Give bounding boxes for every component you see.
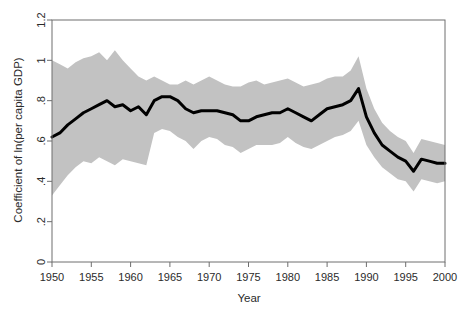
x-tick-label: 1960 bbox=[118, 271, 142, 283]
y-tick-label: 1 bbox=[35, 57, 47, 63]
x-tick-label: 1995 bbox=[393, 271, 417, 283]
y-tick-label: .4 bbox=[35, 177, 47, 186]
y-tick-label: 1.2 bbox=[35, 12, 47, 27]
x-axis-title: Year bbox=[237, 292, 260, 304]
chart-plot-svg: 1950195519601965197019751980198519901995… bbox=[0, 0, 466, 315]
y-tick-label: .8 bbox=[35, 96, 47, 105]
x-tick-label: 1975 bbox=[236, 271, 260, 283]
x-tick-label: 1980 bbox=[276, 271, 300, 283]
chart-figure: 1950195519601965197019751980198519901995… bbox=[0, 0, 466, 315]
y-tick-label: 0 bbox=[35, 259, 47, 265]
x-tick-label: 1990 bbox=[354, 271, 378, 283]
x-tick-label: 1950 bbox=[40, 271, 64, 283]
x-tick-label: 1955 bbox=[79, 271, 103, 283]
x-tick-label: 2000 bbox=[433, 271, 457, 283]
y-axis-title: Coefficient of ln(per capita GDP) bbox=[12, 57, 24, 223]
y-tick-label: .2 bbox=[35, 217, 47, 226]
x-tick-label: 1970 bbox=[197, 271, 221, 283]
x-tick-label: 1985 bbox=[315, 271, 339, 283]
x-tick-label: 1965 bbox=[158, 271, 182, 283]
y-tick-label: .6 bbox=[35, 136, 47, 145]
